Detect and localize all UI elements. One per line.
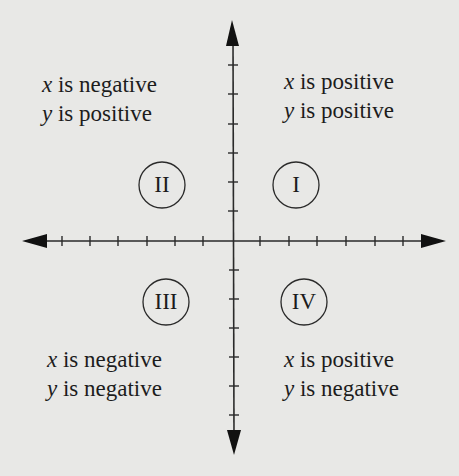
quadrant-iv-x-line: x is positive [284,345,399,374]
quadrant-ii-y-line: y is positive [42,99,157,128]
quadrant-ii-x-line: x is negative [42,70,157,99]
quadrant-iv-label: x is positive y is negative [284,345,399,403]
quadrant-iii-numeral: III [143,279,189,325]
y-axis-down-arrow-icon [227,430,241,455]
x-axis-right-arrow-icon [421,234,446,248]
y-axis-up-arrow-icon [226,20,239,46]
y-sign-text: is positive [52,101,152,126]
quadrant-iii-x-line: x is negative [47,345,162,374]
y-variable: y [47,376,57,401]
x-variable: x [284,347,294,372]
y-axis [226,20,241,455]
quadrant-i-x-line: x is positive [284,67,394,96]
x-variable: x [42,72,52,97]
coordinate-plane-diagram: II I III IV x is negative y is positive … [0,0,459,476]
y-sign-text: is negative [294,376,399,401]
y-variable: y [42,101,52,126]
y-sign-text: is positive [294,98,394,123]
y-variable: y [284,98,294,123]
quadrant-i-numeral: I [273,162,319,208]
x-sign-text: is negative [52,72,157,97]
quadrant-iii-label: x is negative y is negative [47,345,162,403]
x-variable: x [284,69,294,94]
x-sign-text: is positive [294,347,394,372]
x-sign-text: is negative [57,347,162,372]
y-sign-text: is negative [57,376,162,401]
y-variable: y [284,376,294,401]
quadrant-iv-y-line: y is negative [284,374,399,403]
x-variable: x [47,347,57,372]
x-axis-left-arrow-icon [22,234,47,248]
quadrant-ii-numeral: II [139,162,185,208]
quadrant-iv-numeral: IV [281,279,327,325]
quadrant-i-y-line: y is positive [284,96,394,125]
quadrant-i-label: x is positive y is positive [284,67,394,125]
x-sign-text: is positive [294,69,394,94]
quadrant-iii-y-line: y is negative [47,374,162,403]
quadrant-ii-label: x is negative y is positive [42,70,157,128]
